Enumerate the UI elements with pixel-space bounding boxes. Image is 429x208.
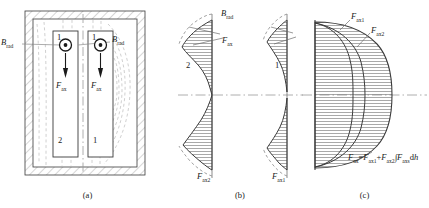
label-coil-left-bottom: 2 bbox=[58, 136, 62, 145]
formula-total-axial-force: Fax=Fax1+Fax2∫Faxsdh bbox=[348, 153, 418, 164]
panel-b: Brad Fax 2 1 Fax2 Fax1 (b) bbox=[175, 0, 305, 208]
label-f-ax2: Fax2 bbox=[197, 172, 210, 183]
label-f-ax-right: Fax bbox=[91, 81, 101, 92]
caption-panel-a: (a) bbox=[0, 191, 175, 200]
figure-root: Brad Brad Fax Fax 1 1 2 1 (a) bbox=[0, 0, 429, 208]
caption-panel-b: (b) bbox=[175, 191, 305, 200]
winding-1-force-profile bbox=[263, 14, 296, 178]
label-f-ax-panel-b: Fax bbox=[222, 36, 232, 47]
label-b-rad-left: Brad bbox=[1, 38, 13, 49]
core-hatched-frame bbox=[25, 11, 145, 175]
label-coil-left-top: 1 bbox=[57, 33, 61, 42]
caption-panel-c: (c) bbox=[300, 191, 429, 200]
panel-c: Fax1 Fax2 Fax=Fax1+Fax2∫Faxsdh (c) bbox=[300, 0, 429, 208]
current-out-of-page-symbol-right bbox=[95, 39, 107, 51]
label-coil-right-bottom: 1 bbox=[93, 136, 97, 145]
current-out-of-page-symbol-left bbox=[60, 39, 72, 51]
label-b-rad-panel-b: Brad bbox=[221, 9, 233, 20]
label-f-ax1: Fax1 bbox=[272, 172, 285, 183]
winding-2-force-profile bbox=[179, 14, 223, 178]
panel-c-drawing bbox=[300, 0, 429, 208]
panel-a-drawing bbox=[0, 0, 175, 208]
label-winding-1: 1 bbox=[275, 61, 279, 70]
label-f-ax-left: Fax bbox=[56, 81, 66, 92]
label-winding-2: 2 bbox=[186, 61, 190, 70]
panel-a: Brad Brad Fax Fax 1 1 2 1 (a) bbox=[0, 0, 175, 208]
label-f-ax2-panel-c: Fax2 bbox=[371, 26, 384, 37]
label-f-ax1-panel-c: Fax1 bbox=[351, 12, 364, 23]
panel-b-drawing bbox=[175, 0, 305, 208]
label-b-rad-right: Brad bbox=[112, 35, 124, 46]
label-coil-right-top: 1 bbox=[92, 33, 96, 42]
